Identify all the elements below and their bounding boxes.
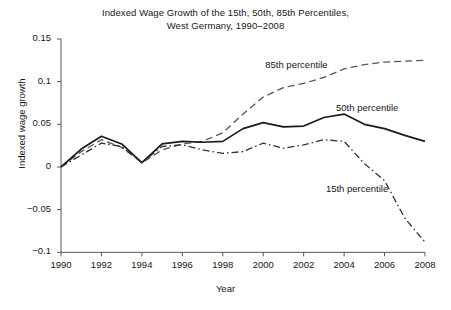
series-line-85th-percentile <box>61 60 425 167</box>
series-label-85th-percentile: 85th percentile <box>265 59 327 70</box>
series-label-50th-percentile: 50th percentile <box>336 102 398 113</box>
x-tick-label: 1990 <box>39 259 83 270</box>
x-tick-label: 1992 <box>79 259 123 270</box>
y-tick-label: −0.05 <box>5 203 51 214</box>
x-tick-label: 1998 <box>201 259 245 270</box>
y-tick-label: 0.05 <box>5 117 51 128</box>
x-tick-label: 2008 <box>403 259 447 270</box>
y-axis-ticks <box>57 39 61 252</box>
y-tick-label: 0.15 <box>5 32 51 43</box>
chart-figure: Indexed Wage Growth of the 15th, 50th, 8… <box>0 0 451 310</box>
y-tick-label: 0 <box>5 160 51 171</box>
x-tick-label: 2000 <box>241 259 285 270</box>
x-tick-label: 1994 <box>120 259 164 270</box>
series-label-15th-percentile: 15th percentile <box>326 183 388 194</box>
y-tick-label: −0.1 <box>5 245 51 256</box>
x-tick-label: 1996 <box>160 259 204 270</box>
series-line-50th-percentile <box>61 114 425 167</box>
x-tick-label: 2006 <box>363 259 407 270</box>
x-tick-label: 2002 <box>282 259 326 270</box>
y-tick-label: 0.1 <box>5 75 51 86</box>
x-axis-ticks <box>61 252 425 256</box>
x-tick-label: 2004 <box>322 259 366 270</box>
